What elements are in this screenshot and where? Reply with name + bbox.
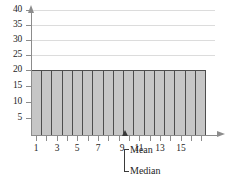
mean-label: Mean: [130, 144, 153, 155]
x-tick-8: [108, 136, 109, 141]
bar: [113, 70, 123, 135]
bar: [41, 70, 51, 135]
bar: [82, 70, 92, 135]
annotation-branch-mean: [124, 149, 129, 150]
bar: [185, 70, 195, 135]
bar: [133, 70, 143, 135]
bar: [195, 70, 206, 135]
bar: [164, 70, 174, 135]
x-axis-arrow-icon: [217, 131, 225, 137]
y-tick-25: [26, 55, 32, 56]
annotation-bracket: [124, 149, 125, 171]
median-label: Median: [130, 165, 161, 176]
x-tick-2: [46, 136, 47, 141]
x-tick-4: [67, 136, 68, 141]
y-axis-arrow-icon: [28, 5, 34, 13]
x-axis-label: 1: [28, 143, 44, 153]
y-axis-label: 20: [0, 65, 22, 75]
bar: [62, 70, 72, 135]
y-axis-label: 5: [0, 113, 22, 123]
gridline-35: [31, 25, 215, 26]
bar: [72, 70, 82, 135]
y-tick-5: [26, 118, 32, 119]
mean-median-annotation: Mean Median: [116, 130, 216, 184]
uniform-distribution-histogram: 40 35 30 25 20 15 10 5 1 3 5 7 9 11 13 1…: [0, 0, 233, 184]
bar: [92, 70, 102, 135]
bar: [154, 70, 164, 135]
y-axis-label: 15: [0, 81, 22, 91]
y-axis-label: 10: [0, 97, 22, 107]
bar: [144, 70, 154, 135]
bar: [51, 70, 61, 135]
gridline-30: [31, 40, 215, 41]
bar: [123, 70, 133, 135]
x-axis-label: 5: [69, 143, 85, 153]
bar: [103, 70, 113, 135]
y-tick-40: [26, 10, 32, 11]
y-axis-label: 25: [0, 50, 22, 60]
x-axis-label: 3: [49, 143, 65, 153]
x-tick-1: [36, 136, 37, 141]
y-axis-label: 40: [0, 5, 22, 15]
x-tick-3: [57, 136, 58, 141]
gridline-25: [31, 55, 215, 56]
y-tick-20: [26, 70, 32, 71]
x-tick-6: [88, 136, 89, 141]
y-tick-35: [26, 25, 32, 26]
bar: [31, 70, 41, 135]
y-axis-label: 30: [0, 35, 22, 45]
bar-series: [31, 70, 206, 135]
annotation-branch-median: [124, 171, 129, 172]
annotation-pointer-arrow-icon: [122, 130, 128, 136]
x-tick-5: [77, 136, 78, 141]
x-axis-label: 7: [90, 143, 106, 153]
bar: [174, 70, 184, 135]
y-axis-label: 35: [0, 20, 22, 30]
gridline-40: [31, 10, 215, 11]
y-tick-15: [26, 86, 32, 87]
x-tick-7: [98, 136, 99, 141]
y-tick-10: [26, 102, 32, 103]
y-tick-30: [26, 40, 32, 41]
